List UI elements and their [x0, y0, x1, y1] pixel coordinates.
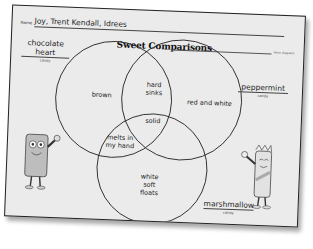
label-marshmallow: marshmallow candy — [203, 199, 254, 216]
region-chocolate-peppermint: hard sinks — [140, 80, 169, 97]
region-text: floats — [134, 188, 164, 197]
venn-worksheet: Name Joy, Trent Kendall, Idrees Sweet Co… — [4, 4, 306, 227]
region-chocolate-marshmallow: melts in my hand — [100, 133, 141, 151]
region-text: sinks — [140, 88, 168, 97]
circle-marshmallow — [95, 112, 209, 226]
candy-name: peppermint — [238, 82, 288, 93]
chocolate-character-icon — [24, 134, 60, 190]
label-chocolate-heart: chocolate heart candy — [21, 38, 70, 64]
label-peppermint: peppermint candy — [238, 82, 289, 99]
region-chocolate-only: brown — [82, 90, 122, 100]
region-text: my hand — [100, 141, 140, 151]
region-all-three: solid — [139, 116, 167, 125]
region-marshmallow-only: white soft floats — [134, 172, 165, 197]
marshmallow-character-icon — [240, 144, 273, 209]
candy-name: marshmallow — [204, 199, 254, 210]
